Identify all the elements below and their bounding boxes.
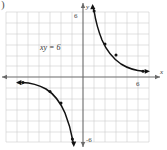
data-point bbox=[93, 10, 96, 13]
coordinate-plane: x y 6 6 -6 -6 xy = 6 bbox=[0, 0, 167, 150]
data-point bbox=[104, 43, 107, 46]
y-axis-arrow-down bbox=[81, 142, 85, 147]
y-tick-label-negative-6: -6 bbox=[86, 136, 92, 144]
x-tick-label-positive-6: 6 bbox=[136, 80, 140, 88]
hyperbola-graph-figure: ) bbox=[0, 0, 167, 150]
curve-arrow-down bbox=[71, 142, 76, 147]
x-axis-arrow-left bbox=[2, 75, 7, 79]
axes bbox=[2, 3, 160, 147]
y-axis-arrow-up bbox=[81, 3, 85, 8]
equation-annotation: xy = 6 bbox=[39, 43, 61, 52]
data-point bbox=[60, 102, 63, 105]
x-axis-label: x bbox=[159, 68, 164, 76]
curve-branch-upper-right bbox=[93, 8, 144, 72]
data-point bbox=[142, 70, 145, 73]
curve-points-upper-right bbox=[93, 10, 145, 73]
axis-arrowheads bbox=[2, 3, 160, 147]
y-axis-label: y bbox=[85, 3, 90, 11]
curve-arrow-upper bbox=[90, 4, 95, 9]
y-tick-label-positive-6: 6 bbox=[74, 12, 78, 20]
data-point bbox=[22, 81, 25, 84]
data-point bbox=[115, 54, 118, 57]
data-point bbox=[49, 90, 52, 93]
curve-branch-lower-left bbox=[22, 83, 73, 144]
data-point bbox=[71, 138, 74, 141]
